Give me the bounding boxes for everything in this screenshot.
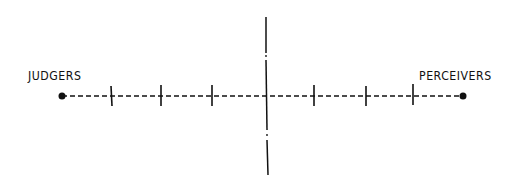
right-endpoint-dot: [460, 93, 467, 100]
vertical-axis-segment: [267, 140, 268, 175]
vertical-axis-segment: [266, 60, 267, 130]
left-pole-label: JUDGERS: [28, 69, 81, 83]
right-pole-label: PERCEIVERS: [419, 69, 492, 83]
tick-mark: [111, 86, 112, 106]
left-endpoint-dot: [59, 93, 66, 100]
vertical-axis-dot: [266, 134, 268, 136]
vertical-axis-dot: [265, 55, 267, 57]
scale-diagram: [0, 0, 529, 188]
